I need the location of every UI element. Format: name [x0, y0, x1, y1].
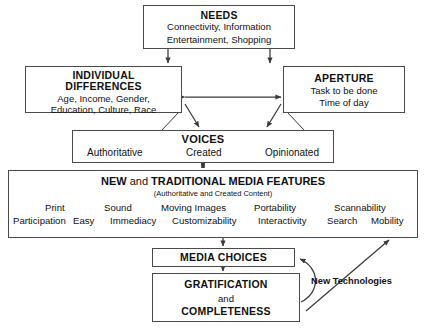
individual-line-2: Education, Culture, Race [26, 104, 181, 115]
features-title-new: NEW [101, 175, 127, 187]
voices-option-authoritative: Authoritative [87, 147, 143, 158]
needs-title: NEEDS [144, 9, 294, 21]
feature-interactivity: Interactivity [258, 215, 307, 226]
media-choices-title: MEDIA CHOICES [153, 251, 294, 263]
box-aperture: APERTURE Task to be done Time of day [283, 66, 405, 113]
voices-option-opinionated: Opinionated [265, 147, 319, 158]
feature-portability: Portability [254, 202, 296, 213]
box-individual-differences: INDIVIDUAL DIFFERENCES Age, Income, Gend… [25, 66, 182, 113]
gratification-line-1: GRATIFICATION [153, 278, 299, 292]
aperture-line-1: Task to be done [284, 85, 404, 98]
needs-line-2: Entertainment, Shopping [144, 34, 294, 46]
guide-line-right [288, 113, 304, 130]
individual-line-1: Age, Income, Gender, [26, 93, 181, 104]
gratification-line-2: and [153, 292, 299, 306]
aperture-title: APERTURE [284, 72, 404, 85]
voices-option-created: Created [186, 147, 222, 158]
features-title-rest: TRADITIONAL MEDIA FEATURES [151, 175, 325, 187]
box-media-choices: MEDIA CHOICES [152, 248, 295, 267]
arrow-aperture-to-voices [267, 104, 281, 127]
box-needs: NEEDS Connectivity, Information Entertai… [143, 5, 295, 49]
feature-participation: Participation [13, 215, 66, 226]
box-voices: VOICES Authoritative Created Opinionated [72, 130, 334, 163]
aperture-line-2: Time of day [284, 97, 404, 110]
features-title: NEW and TRADITIONAL MEDIA FEATURES [9, 175, 417, 188]
individual-title-line-2: DIFFERENCES [26, 81, 181, 92]
media-choices-flow-diagram: NEEDS Connectivity, Information Entertai… [0, 0, 429, 330]
features-title-and: and [127, 175, 151, 187]
voices-options: Authoritative Created Opinionated [73, 146, 333, 158]
new-technologies-label: New Technologies [311, 276, 392, 286]
features-grid: Print Sound Moving Images Portability Sc… [9, 202, 417, 232]
needs-line-1: Connectivity, Information [144, 21, 294, 33]
feature-moving-images: Moving Images [161, 202, 226, 213]
box-media-features: NEW and TRADITIONAL MEDIA FEATURES (Auth… [8, 170, 418, 238]
feature-search: Search [327, 215, 357, 226]
feature-mobility: Mobility [371, 215, 404, 226]
feature-scannability: Scannability [334, 202, 386, 213]
box-gratification: GRATIFICATION and COMPLETENESS [152, 273, 300, 322]
feature-immediacy: Immediacy [110, 215, 156, 226]
feature-customizability: Customizability [172, 215, 237, 226]
feature-print: Print [45, 202, 65, 213]
feature-sound: Sound [104, 202, 132, 213]
gratification-line-3: COMPLETENESS [153, 305, 299, 319]
features-subtitle: (Authoritative and Created Content) [9, 188, 417, 199]
guide-line-left [162, 113, 178, 130]
voices-title: VOICES [73, 133, 333, 146]
feature-easy: Easy [73, 215, 94, 226]
arrow-individual-to-voices [185, 104, 199, 127]
